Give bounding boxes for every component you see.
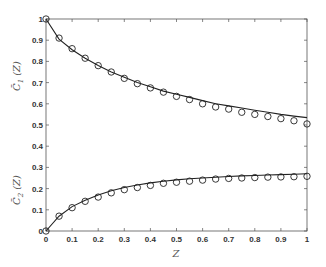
x-tick-label: 0.4	[145, 235, 157, 244]
x-tick-label: 0.9	[275, 235, 287, 244]
plot-frame	[46, 19, 307, 231]
x-tick-label: 0.7	[223, 235, 235, 244]
x-tick-label: 0.2	[93, 235, 105, 244]
data-marker	[291, 118, 297, 124]
y-tick-label: 0.2	[32, 185, 44, 194]
svg-text:C̄1(Z): C̄1(Z)	[11, 61, 25, 91]
y-tick-label: 0.3	[32, 163, 44, 172]
axis-ticks: 00.10.20.30.40.50.60.70.80.9100.10.20.30…	[32, 15, 310, 244]
x-tick-label: 1	[305, 235, 310, 244]
y-axis-label-bottom: C̄2(Z)	[11, 175, 25, 205]
x-tick-label: 0	[44, 235, 49, 244]
chart: 00.10.20.30.40.50.60.70.80.9100.10.20.30…	[0, 0, 326, 267]
x-tick-label: 0.6	[197, 235, 209, 244]
data-marker	[212, 104, 218, 110]
data-marker	[252, 111, 258, 117]
series-line	[46, 174, 307, 231]
data-marker	[69, 45, 75, 51]
x-tick-label: 0.8	[249, 235, 261, 244]
x-tick-label: 0.1	[67, 235, 79, 244]
data-marker	[239, 109, 245, 115]
data-marker	[226, 106, 232, 112]
y-tick-label: 0.5	[32, 121, 44, 130]
y-tick-label: 0.8	[32, 57, 44, 66]
y-tick-label: 0.4	[32, 142, 44, 151]
x-tick-label: 0.5	[171, 235, 183, 244]
y-tick-label: 0.6	[32, 100, 44, 109]
data-marker	[278, 115, 284, 121]
x-tick-label: 0.3	[119, 235, 131, 244]
y-tick-label: 0.9	[32, 36, 44, 45]
series-lines	[46, 19, 307, 231]
data-marker	[56, 35, 62, 41]
x-axis-label: Z	[172, 248, 181, 259]
data-marker	[199, 101, 205, 107]
y-tick-label: 0.7	[32, 79, 44, 88]
series-line	[46, 19, 307, 118]
data-marker	[265, 113, 271, 119]
plot-border	[46, 19, 307, 231]
svg-text:C̄2(Z): C̄2(Z)	[11, 175, 25, 205]
y-axis-label-top: C̄1(Z)	[11, 61, 25, 91]
y-tick-label: 0.1	[32, 206, 44, 215]
